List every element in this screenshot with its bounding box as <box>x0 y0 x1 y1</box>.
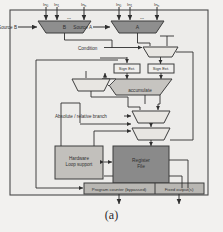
hardware-loop-line2: Loop support <box>66 162 94 167</box>
register-file-line1: Register <box>132 158 150 163</box>
figure-container: In0 In1 Inn ⋯ In0 In1 Inn ⋯ B Source B A <box>0 0 223 232</box>
accumulate-label: accumulate <box>128 88 152 93</box>
source-a-label: Source A <box>73 25 93 30</box>
figure-caption: (a) <box>0 208 223 223</box>
branch-mux[interactable] <box>132 111 170 123</box>
condition-mux[interactable] <box>143 47 178 57</box>
ellipsis-left: ⋯ <box>67 16 71 21</box>
writeback-mux[interactable] <box>132 128 170 140</box>
absolute-relative-branch-label: Absolute / relative branch <box>55 114 107 119</box>
fixed-outputs-label: Fixed output(s) <box>165 187 194 192</box>
program-counter-label: Program counter (bypassed) <box>92 187 147 192</box>
condition-label: Condition <box>78 46 98 51</box>
hardware-loop-line1: Hardware <box>69 156 89 161</box>
ellipsis-right: ⋯ <box>140 16 144 21</box>
register-file-line2: File <box>137 164 145 169</box>
operand-mux[interactable] <box>72 79 110 91</box>
source-b-label: Source B <box>0 25 17 30</box>
chip-boundary <box>10 10 208 195</box>
sign-ext-left-label: Sign Ext. <box>119 66 135 71</box>
datapath-block-diagram: In0 In1 Inn ⋯ In0 In1 Inn ⋯ B Source B A <box>0 0 223 232</box>
sign-ext-right-label: Sign Ext. <box>153 66 169 71</box>
